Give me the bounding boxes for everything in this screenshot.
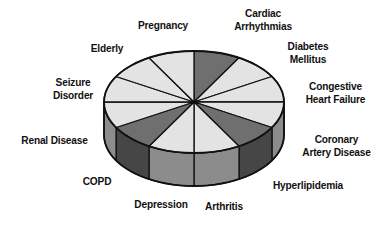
label-cardiac-arrhythmias: Cardiac Arrhythmias (223, 7, 302, 33)
label-diabetes-mellitus: Diabetes Mellitus (273, 40, 343, 66)
label-coronary-artery-disease: Coronary Artery Disease (296, 133, 378, 159)
label-pregnancy: Pregnancy (132, 19, 194, 32)
label-depression: Depression (130, 198, 192, 211)
label-elderly: Elderly (85, 42, 129, 55)
label-congestive-heart-failure: Congestive Heart Failure (294, 80, 378, 106)
label-copd: COPD (75, 175, 119, 188)
label-renal-disease: Renal Disease (17, 134, 92, 147)
label-hyperlipidemia: Hyperlipidemia (264, 179, 352, 192)
label-seizure-disorder: Seizure Disorder (42, 76, 104, 102)
label-arthritis: Arthritis (198, 200, 251, 213)
